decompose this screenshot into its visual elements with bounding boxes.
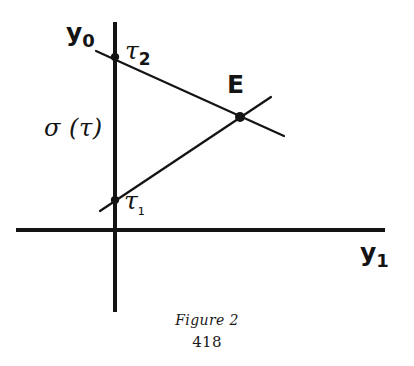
point-tau1-dot	[111, 196, 119, 204]
axis-label-y1-subscript: 1	[376, 250, 389, 271]
axis-label-y1: y1	[360, 240, 389, 270]
axis-label-y0-base: y	[66, 18, 82, 47]
figure-container: y0 y1 τ2 τ₁ σ (τ) E Figure 2 418	[0, 0, 414, 366]
point-label-tau1-base: τ	[124, 186, 138, 215]
point-label-tau1: τ₁	[124, 188, 145, 219]
point-label-tau2: τ2	[125, 38, 151, 68]
point-label-tau2-subscript: 2	[139, 49, 151, 69]
figure-caption-title: Figure 2	[0, 312, 414, 328]
axis-label-y0-subscript: 0	[82, 30, 95, 51]
point-E-dot	[235, 112, 245, 122]
point-label-tau2-base: τ	[125, 36, 139, 65]
point-label-tau1-subscript: ₁	[138, 199, 145, 219]
curve-label-sigma-tau: σ (τ)	[44, 116, 103, 140]
point-label-E: E	[227, 72, 244, 97]
page-number: 418	[0, 333, 414, 351]
axis-label-y0: y0	[66, 20, 95, 50]
point-tau2-dot	[111, 53, 119, 61]
axis-label-y1-base: y	[360, 238, 376, 267]
figure-caption-block: Figure 2 418	[0, 312, 414, 351]
